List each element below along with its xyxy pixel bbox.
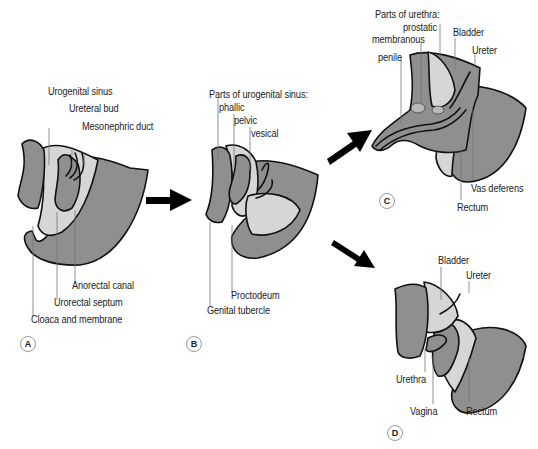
label-ureter-c: Ureter: [472, 45, 497, 56]
label-parts-of-urethra: Parts of urethra:: [375, 9, 439, 20]
label-rectum-c: Rectum: [457, 202, 488, 213]
label-parts-of-urogenital-sinus: Parts of urogenital sinus:: [209, 89, 308, 100]
figure-artwork: [0, 0, 538, 449]
label-ureteral-bud: Ureteral bud: [69, 103, 119, 114]
panel-id-d: D: [387, 425, 403, 441]
label-prostatic: prostatic: [403, 22, 437, 33]
label-mesonephric-duct: Mesonephric duct: [82, 121, 153, 132]
label-penile: penile: [378, 52, 402, 63]
label-proctodeum: Proctodeum: [231, 290, 280, 301]
label-rectum-d: Rectum: [466, 406, 497, 417]
label-urethra: Urethra: [396, 374, 426, 385]
label-membranous: membranous: [372, 34, 425, 45]
label-bladder-d: Bladder: [438, 255, 469, 266]
embryology-figure: Urogenital sinus Ureteral bud Mesonephri…: [0, 0, 538, 449]
label-vagina: Vagina: [410, 406, 437, 417]
label-phallic: phallic: [219, 102, 244, 113]
panel-c-drawing: [372, 52, 526, 182]
label-vas-deferens: Vas deferens: [471, 183, 523, 194]
panel-b-drawing: [206, 145, 318, 258]
label-genital-tubercle: Genital tubercle: [207, 305, 270, 316]
label-pelvic: pelvic: [234, 115, 257, 126]
label-cloaca-and-membrane: Cloaca and membrane: [31, 314, 122, 325]
label-urorectal-septum: Urorectal septum: [54, 297, 123, 308]
arrow-a-to-b: [146, 189, 192, 211]
panel-id-a: A: [20, 336, 36, 352]
panel-id-b: B: [186, 336, 202, 352]
arrow-b-to-c: [327, 130, 372, 165]
label-ureter-d: Ureter: [466, 270, 491, 281]
arrow-b-to-d: [331, 240, 375, 268]
panel-id-c: C: [379, 193, 395, 209]
label-vesical: vesical: [251, 128, 278, 139]
label-bladder-c: Bladder: [453, 27, 484, 38]
panel-d-drawing: [395, 282, 526, 413]
label-anorectal-canal: Anorectal canal: [72, 280, 134, 291]
label-urogenital-sinus: Urogenital sinus: [48, 86, 113, 97]
panel-a-drawing: [18, 140, 148, 265]
